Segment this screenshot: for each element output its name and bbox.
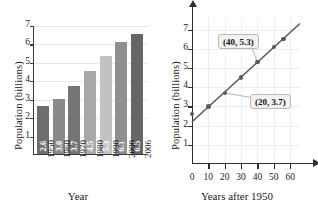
- y-axis-tick-label: 1: [176, 138, 188, 148]
- bar-chart-plot-area: 1234567 2.63.03.74.55.36.16.5 1950196019…: [33, 26, 146, 155]
- y-axis-tick-label: 2: [176, 119, 188, 129]
- scatter-chart-panel: Population (billions) 1234567 0102030405…: [156, 0, 318, 216]
- y-axis-tick-label: 1: [18, 130, 30, 140]
- figure-container: Population (billions) 1234567 2.63.03.74…: [0, 0, 318, 216]
- y-axis-tick-label: 3: [176, 99, 188, 109]
- scatter-chart-plot-area: 1234567 0102030405060 (40, 5.3)(20, 3.7)…: [192, 18, 300, 164]
- bar-chart-panel: Population (billions) 1234567 2.63.03.74…: [0, 0, 156, 216]
- y-axis-tick-label: 7: [176, 23, 188, 33]
- scatter-chart-x-axis-title: Years after 1950: [156, 190, 318, 202]
- bar: 6.1: [115, 42, 127, 154]
- point-annotation: (40, 5.3): [218, 34, 259, 49]
- bar-chart-bars: 2.63.03.74.55.36.16.5: [34, 26, 146, 154]
- y-axis-tick-label: 6: [176, 42, 188, 52]
- bar-chart-x-axis-title: Year: [0, 190, 156, 202]
- y-axis-tick-label: 4: [176, 80, 188, 90]
- x-axis-tick-mark: [208, 164, 209, 169]
- bar: 6.5: [131, 34, 143, 154]
- x-axis-tick-label: 2000: [127, 140, 137, 158]
- x-axis-tick-label: 1960: [62, 140, 72, 158]
- x-axis-tick-label: 1980: [95, 140, 105, 158]
- data-point: [223, 91, 227, 95]
- data-point: [255, 60, 259, 64]
- y-axis-arrow-icon: [189, 0, 197, 7]
- data-point: [206, 104, 210, 108]
- y-axis-tick-label: 6: [18, 37, 30, 47]
- x-axis-tick-label: 1990: [111, 140, 121, 158]
- x-axis-tick-mark: [257, 164, 258, 169]
- y-axis-tick-label: 5: [176, 61, 188, 71]
- data-point: [239, 75, 243, 79]
- y-axis-tick-label: 4: [18, 74, 30, 84]
- y-axis-tick-label: 2: [18, 111, 30, 121]
- x-axis-tick-mark: [241, 164, 242, 169]
- data-point: [272, 45, 276, 49]
- x-axis-tick-label: 1950: [46, 140, 56, 158]
- x-axis-tick-label: 2006: [143, 140, 153, 158]
- y-axis-tick-label: 3: [18, 93, 30, 103]
- x-axis-arrow-icon: [313, 159, 318, 167]
- x-axis-tick-mark: [290, 164, 291, 169]
- x-axis-tick-mark: [225, 164, 226, 169]
- point-annotation: (20, 3.7): [250, 94, 291, 109]
- y-axis-tick-label: 5: [18, 56, 30, 66]
- y-axis-tick-label: 7: [18, 19, 30, 29]
- x-axis-tick-label: 60: [280, 172, 300, 182]
- x-axis-tick-mark: [274, 164, 275, 169]
- x-axis-tick-label: 1970: [78, 140, 88, 158]
